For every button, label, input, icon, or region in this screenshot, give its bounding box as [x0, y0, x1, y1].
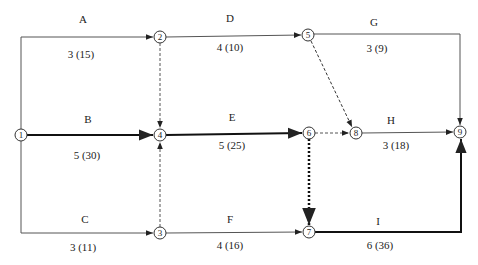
activity-h-arrow — [362, 132, 453, 133]
activity-i-detail: 6 (36) — [367, 240, 394, 251]
activity-f-name: F — [227, 214, 233, 225]
activity-g-name: G — [370, 17, 378, 28]
activity-d-detail: 4 (10) — [217, 42, 244, 53]
node-8: 8 — [350, 127, 363, 140]
node-3: 3 — [154, 227, 167, 240]
activity-e-detail: 5 (25) — [219, 140, 246, 151]
node-7: 7 — [303, 226, 316, 239]
activity-i-arrow — [315, 139, 461, 232]
activity-f-arrow — [166, 232, 302, 233]
activity-e-arrow — [166, 133, 302, 135]
node-9: 9 — [454, 126, 467, 139]
activity-a-name: A — [79, 14, 87, 25]
node-2: 2 — [154, 31, 167, 44]
activity-f-detail: 4 (16) — [217, 240, 244, 251]
activity-b-name: B — [84, 114, 91, 125]
activity-h-detail: 3 (18) — [383, 140, 410, 151]
activity-i-name: I — [376, 216, 380, 227]
dummy-5-8-arrow — [311, 41, 352, 127]
node-4: 4 — [154, 129, 167, 142]
node-6: 6 — [303, 127, 316, 140]
activity-g-detail: 3 (9) — [366, 43, 387, 54]
activity-c-detail: 3 (11) — [70, 242, 96, 253]
activity-d-arrow — [166, 35, 301, 37]
activity-d-name: D — [226, 13, 234, 24]
activity-h-name: H — [387, 115, 395, 126]
activity-c-name: C — [81, 214, 88, 225]
activity-e-name: E — [229, 112, 236, 123]
node-5: 5 — [302, 29, 315, 42]
node-1: 1 — [15, 129, 28, 142]
activity-a-detail: 3 (15) — [68, 49, 95, 60]
activity-b-detail: 5 (30) — [74, 150, 101, 161]
